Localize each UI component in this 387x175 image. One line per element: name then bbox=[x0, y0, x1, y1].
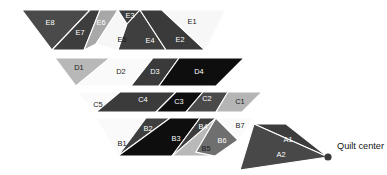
quilt-diagram-svg: E8E7E6E5E3E4E2E1D1D2D3D4C5C4C3C2C1B1B2B3… bbox=[0, 0, 387, 175]
round-a: A1A2 bbox=[240, 124, 328, 170]
quilt-diagram-canvas: E8E7E6E5E3E4E2E1D1D2D3D4C5C4C3C2C1B1B2B3… bbox=[0, 0, 387, 175]
round-d: D1D2D3D4 bbox=[55, 58, 244, 86]
round-e: E8E7E6E5E3E4E2E1 bbox=[22, 10, 226, 50]
quilt-center-dot[interactable] bbox=[324, 153, 331, 160]
round-c: C5C4C3C2C1 bbox=[76, 92, 262, 112]
quilt-center-group: Quilt center bbox=[324, 141, 384, 160]
quilt-center-label: Quilt center bbox=[337, 141, 384, 151]
round-b: B1B2B3B4B5B6B7 bbox=[96, 118, 254, 156]
quilt-rounds-group: E8E7E6E5E3E4E2E1D1D2D3D4C5C4C3C2C1B1B2B3… bbox=[22, 10, 328, 170]
